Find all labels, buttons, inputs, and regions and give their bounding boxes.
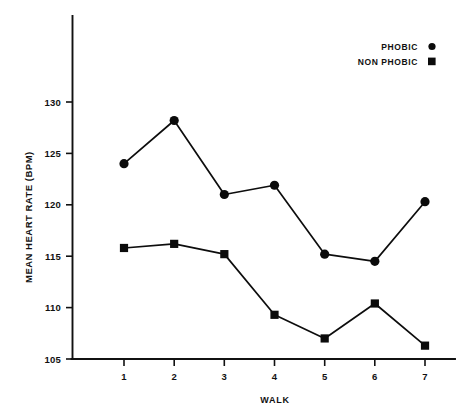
y-tick-label-125: 125 — [45, 148, 62, 159]
x-tick-label-1: 1 — [121, 371, 127, 382]
data-point-marker — [170, 116, 179, 125]
square-marker-icon — [428, 58, 436, 66]
x-tick-label-6: 6 — [372, 371, 377, 382]
data-point-marker — [270, 181, 279, 190]
x-tick-label-4: 4 — [272, 371, 278, 382]
data-point-marker — [320, 250, 329, 259]
data-point-marker — [371, 299, 379, 307]
x-tick-label-3: 3 — [222, 371, 227, 382]
data-point-marker — [421, 342, 429, 350]
data-point-marker — [220, 250, 228, 258]
data-point-marker — [119, 159, 128, 168]
data-point-marker — [420, 197, 429, 206]
data-point-marker — [370, 257, 379, 266]
y-tick-group — [66, 102, 73, 359]
series-line-phobic — [124, 121, 425, 262]
x-axis-title: WALK — [260, 395, 289, 405]
y-tick-label-120: 120 — [45, 199, 61, 210]
series-phobic — [119, 116, 429, 266]
x-tick-group — [124, 359, 425, 366]
y-tick-label-110: 110 — [45, 302, 61, 313]
chart-figure: 130 125 120 115 110 105 1 2 3 4 5 6 7 — [0, 0, 469, 417]
legend: PHOBIC NON PHOBIC — [358, 42, 436, 67]
series-markers-non-phobic — [120, 240, 429, 350]
y-tick-label-130: 130 — [45, 97, 61, 108]
data-point-marker — [270, 311, 278, 319]
y-tick-label-group: 130 125 120 115 110 105 — [45, 97, 62, 365]
legend-label-non-phobic: NON PHOBIC — [358, 57, 418, 67]
y-tick-label-105: 105 — [45, 354, 62, 365]
data-point-marker — [220, 190, 229, 199]
x-tick-label-7: 7 — [422, 371, 427, 382]
data-point-marker — [120, 244, 128, 252]
y-tick-label-115: 115 — [45, 251, 61, 262]
data-point-marker — [321, 334, 329, 342]
x-tick-label-5: 5 — [322, 371, 328, 382]
legend-label-phobic: PHOBIC — [381, 42, 418, 52]
series-line-non-phobic — [124, 244, 425, 346]
series-non-phobic — [120, 240, 429, 350]
x-tick-label-2: 2 — [171, 371, 176, 382]
data-point-marker — [170, 240, 178, 248]
y-axis-title: MEAN HEART RATE (BPM) — [23, 151, 34, 283]
series-markers-phobic — [119, 116, 429, 266]
x-tick-label-group: 1 2 3 4 5 6 7 — [121, 371, 427, 382]
circle-marker-icon — [428, 43, 435, 50]
line-chart-canvas: 130 125 120 115 110 105 1 2 3 4 5 6 7 — [0, 0, 469, 417]
